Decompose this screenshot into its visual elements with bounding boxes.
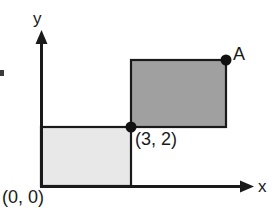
arrow-right-icon (240, 181, 254, 193)
upper-right-rectangle (131, 60, 226, 127)
x-axis-label: x (258, 178, 267, 195)
coordinate-figure: y x A (3, 2) (0, 0) (0, 0, 276, 219)
scan-edge-mark (0, 70, 4, 76)
point-A-dot (221, 55, 232, 66)
origin-label: (0, 0) (2, 188, 44, 206)
y-axis-label: y (33, 10, 42, 27)
point-A-label: A (233, 45, 245, 63)
lower-left-rectangle (41, 127, 131, 186)
arrow-up-icon (36, 30, 48, 44)
point-3-2-label: (3, 2) (135, 130, 177, 148)
